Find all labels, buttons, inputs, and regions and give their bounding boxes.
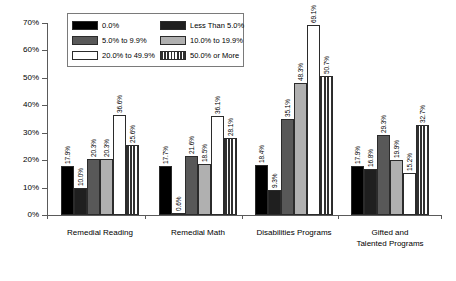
bar-value-label: 18.5%	[201, 144, 208, 162]
bar-value-label: 20.3%	[103, 139, 110, 157]
category-label-line: Gifted and	[330, 227, 450, 238]
bar-value-label: 17.9%	[64, 146, 71, 164]
bar	[377, 135, 390, 215]
bar	[307, 25, 320, 215]
bar	[320, 76, 333, 215]
bar-value-label: 48.3%	[297, 63, 304, 81]
plot-area: 17.9%17.7%18.4%17.9%10.0%0.6%9.3%16.8%20…	[47, 23, 441, 215]
bar	[74, 188, 87, 215]
y-axis-tick-label: 0%	[0, 211, 39, 219]
bar-value-label: 0.6%	[175, 197, 182, 211]
bar	[198, 164, 211, 215]
x-axis-tick	[242, 215, 243, 219]
bar	[211, 116, 224, 215]
bar-value-label: 36.6%	[116, 95, 123, 113]
y-axis-tick-label: 60%	[0, 46, 39, 54]
bar	[172, 213, 185, 215]
bar	[113, 115, 126, 215]
bar-value-label: 17.7%	[162, 147, 169, 165]
bar-value-label: 10.0%	[77, 168, 84, 186]
bar-value-label: 25.6%	[129, 125, 136, 143]
y-axis-tick-label: 50%	[0, 74, 39, 82]
category-label: Gifted andTalented Programs	[330, 227, 450, 249]
bar	[416, 125, 429, 215]
bar	[268, 190, 281, 216]
bar-value-label: 19.9%	[393, 140, 400, 158]
bar	[159, 166, 172, 215]
bar-value-label: 16.8%	[367, 149, 374, 167]
bar	[185, 156, 198, 215]
bar	[87, 159, 100, 215]
bar-value-label: 28.1%	[227, 118, 234, 136]
bar-value-label: 17.9%	[354, 146, 361, 164]
bar-value-label: 32.7%	[419, 105, 426, 123]
x-axis-tick	[441, 215, 442, 219]
y-axis-tick-label: 10%	[0, 184, 39, 192]
bar	[255, 165, 268, 215]
bar	[100, 159, 113, 215]
x-axis-tick	[338, 215, 339, 219]
bar-value-label: 15.2%	[406, 153, 413, 171]
y-axis-tick-label: 30%	[0, 129, 39, 137]
bar-chart: 0%10%20%30%40%50%60%70% 0.0%Less Than 5.…	[0, 0, 456, 281]
bar	[126, 145, 139, 215]
y-axis-tick-label: 40%	[0, 101, 39, 109]
bar-value-label: 21.6%	[188, 136, 195, 154]
category-label-line: Talented Programs	[330, 238, 450, 249]
bar	[294, 83, 307, 215]
bar	[224, 138, 237, 215]
bar	[61, 166, 74, 215]
bar-value-label: 36.1%	[214, 96, 221, 114]
bar-value-label: 29.3%	[380, 115, 387, 133]
bar-value-label: 50.7%	[323, 56, 330, 74]
bar	[403, 173, 416, 215]
bar-value-label: 9.3%	[271, 173, 278, 187]
x-axis-line	[47, 215, 441, 216]
bar-value-label: 35.1%	[284, 99, 291, 117]
y-axis-tick-label: 20%	[0, 156, 39, 164]
x-axis-tick	[145, 215, 146, 219]
bar	[390, 160, 403, 215]
bar	[351, 166, 364, 215]
bar-value-label: 20.3%	[90, 139, 97, 157]
x-axis-tick	[47, 215, 48, 219]
bar	[281, 119, 294, 215]
bar	[364, 169, 377, 215]
bar-value-label: 69.1%	[310, 6, 317, 24]
bar-value-label: 18.4%	[258, 145, 265, 163]
y-axis-tick-label: 70%	[0, 19, 39, 27]
